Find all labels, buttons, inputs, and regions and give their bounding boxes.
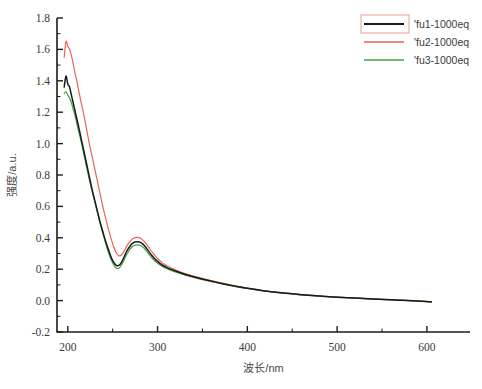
y-tick-label: 0.8 (36, 169, 51, 181)
x-tick-label: 200 (59, 341, 77, 353)
legend-item[interactable]: 'fu2-1000eq (364, 36, 469, 48)
y-tick-label: -0.2 (32, 326, 50, 338)
x-axis-title: 波长/nm (243, 362, 283, 374)
y-tick-label: 0.4 (36, 232, 51, 244)
y-tick-label: 1.4 (36, 75, 51, 87)
data-curves (64, 41, 431, 302)
y-tick-label: 1.6 (36, 43, 51, 55)
y-tick-label: 1.2 (36, 106, 51, 118)
legend-item-label: 'fu2-1000eq (414, 36, 469, 48)
axis-frame (57, 18, 470, 332)
legend-item-label: 'fu3-1000eq (414, 54, 469, 66)
y-axis-title: 强度/a.u. (5, 153, 18, 196)
x-tick-label: 300 (149, 341, 167, 353)
legend-item[interactable]: 'fu3-1000eq (364, 54, 469, 66)
legend-item-label: 'fu1-1000eq (414, 18, 469, 30)
y-tick-label: 1.0 (36, 138, 51, 150)
x-tick-label: 400 (239, 341, 257, 353)
chart-canvas: -0.20.00.20.40.60.81.01.21.41.61.8200300… (0, 0, 482, 389)
series-line[interactable] (64, 92, 431, 302)
legend[interactable]: 'fu1-1000eq'fu2-1000eq'fu3-1000eq (361, 15, 469, 66)
legend-item[interactable]: 'fu1-1000eq (361, 15, 469, 33)
series-line[interactable] (64, 41, 431, 302)
y-tick-label: 0.2 (36, 263, 51, 275)
x-tick-label: 600 (418, 341, 436, 353)
y-tick-label: 0.0 (36, 295, 51, 307)
y-tick-label: 0.6 (36, 200, 51, 212)
spectrum-plot: -0.20.00.20.40.60.81.01.21.41.61.8200300… (0, 0, 482, 389)
x-tick-label: 500 (328, 341, 346, 353)
y-axis-ticks: -0.20.00.20.40.60.81.01.21.41.61.8 (32, 12, 63, 338)
y-tick-label: 1.8 (36, 12, 51, 24)
x-axis-ticks: 200300400500600 (59, 326, 436, 353)
